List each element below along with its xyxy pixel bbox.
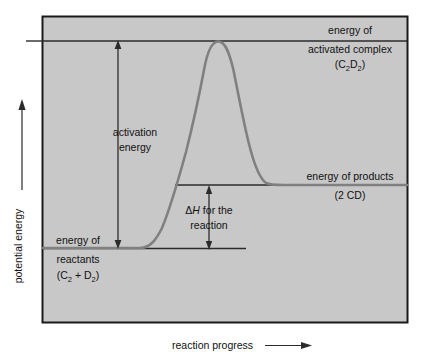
delta-h-rest: for the	[200, 204, 233, 216]
reactants-label-line2: reactants	[56, 253, 99, 265]
activation-energy-label-line2: energy	[119, 141, 152, 153]
delta-symbol: Δ	[185, 204, 192, 216]
reactants-label-line1: energy of	[56, 234, 100, 246]
energy-diagram-figure: potential energy reaction progress energ…	[0, 0, 428, 364]
delta-h-label-line2: reaction	[190, 219, 228, 231]
rx-formula-pre: (C	[57, 269, 68, 281]
rx-formula-post: )	[96, 269, 100, 281]
y-axis-label: potential energy	[12, 208, 24, 283]
ac-formula-post: )	[362, 58, 366, 70]
rx-formula-mid: + D	[72, 269, 92, 281]
ac-formula-pre: (C	[335, 58, 346, 70]
activated-complex-label-line2: activated complex	[308, 43, 393, 55]
x-axis-label: reaction progress	[172, 339, 253, 351]
activated-complex-label-line1: energy of	[328, 24, 372, 36]
delta-h-label-line1: ΔH for the	[185, 204, 232, 216]
products-label-line2: (2 CD)	[335, 189, 366, 201]
products-label-line1: energy of products	[307, 170, 394, 182]
activation-energy-label-line1: activation	[113, 126, 158, 138]
